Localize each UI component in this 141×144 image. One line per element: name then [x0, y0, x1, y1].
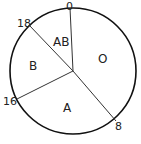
perimeter-label-18: 18 — [17, 17, 31, 30]
slice-label-a: A — [63, 101, 72, 115]
slice-label-o: O — [98, 52, 107, 66]
perimeter-label-8: 8 — [115, 120, 122, 133]
divider-16 — [17, 71, 73, 99]
divider-0 — [70, 8, 73, 71]
perimeter-label-16: 16 — [3, 95, 17, 108]
slice-label-ab: AB — [53, 35, 69, 49]
pie-chart: 0 18 16 8 AB B O A — [0, 0, 141, 144]
divider-8 — [73, 71, 116, 121]
perimeter-label-0: 0 — [66, 0, 73, 13]
slice-label-b: B — [29, 59, 37, 73]
